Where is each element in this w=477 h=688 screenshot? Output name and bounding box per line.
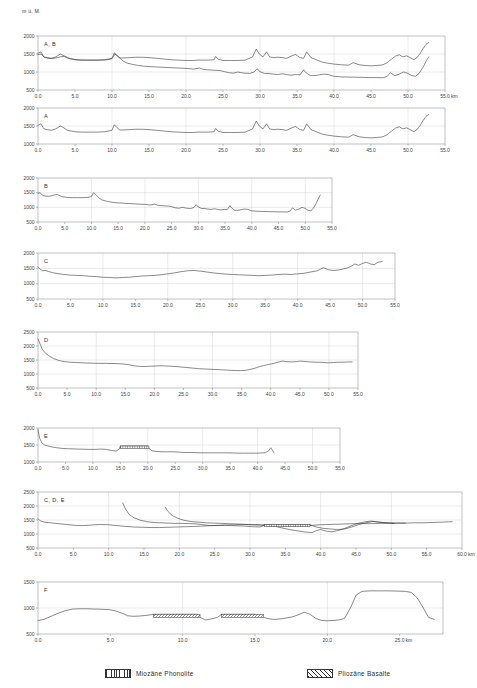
x-tick-label: 40.0 <box>316 551 326 557</box>
x-tick-label: 5.0 <box>72 93 79 99</box>
x-tick-label: 20.0 <box>322 637 332 643</box>
x-tick-label: 20.0 <box>140 225 150 231</box>
x-tick-label: 45.0 <box>351 551 361 557</box>
x-tick-label: 30.0 <box>255 93 265 99</box>
x-tick-label: 15.0 <box>139 551 149 557</box>
profile-panel-c: 2000150010005000.05.010.015.020.025.030.… <box>0 243 477 313</box>
x-tick-label: 35.0 <box>225 465 235 471</box>
x-tick-label: 35.0 <box>237 391 247 397</box>
x-tick-label: 10.0 <box>87 225 97 231</box>
profile-line-profile-D <box>38 339 352 371</box>
y-tick-label: 2000 <box>23 175 34 181</box>
x-tick-label: 0.0 <box>35 302 42 308</box>
profile-panel-ab: 2000150010005000.05.010.015.020.025.030.… <box>0 16 477 104</box>
geology-band-pliozaene-basalte <box>222 614 264 617</box>
profile-panel-e: 2000150010000.05.010.015.020.025.030.035… <box>0 418 477 476</box>
y-tick-label: 1500 <box>23 579 34 585</box>
x-tick-label: 50.0 <box>386 551 396 557</box>
x-tick-label: 15.0 <box>115 465 125 471</box>
x-tick-label: 40.0 <box>293 302 303 308</box>
x-tick-label: 55.0 <box>440 147 450 153</box>
x-tick-label: 0.0 <box>35 147 42 153</box>
panel-title: C, D, E <box>44 497 65 503</box>
x-tick-label: 5.0 <box>107 637 114 643</box>
x-tick-label: 5.0 <box>62 465 69 471</box>
x-tick-label: 40.0 <box>329 147 339 153</box>
x-tick-label: 5.0 <box>72 147 79 153</box>
x-tick-label: 10.0 <box>88 465 98 471</box>
legend-item-miozaene-phonolite: Miozäne Phonolite <box>105 669 194 678</box>
panel-title: C <box>44 258 48 264</box>
x-tick-label: 35.0 <box>292 147 302 153</box>
y-tick-label: 500 <box>26 545 35 551</box>
y-tick-label: 1500 <box>23 517 34 523</box>
x-tick-label: 5.0 <box>61 225 68 231</box>
x-axis-unit-label: km <box>468 551 475 557</box>
x-tick-label: 45.0 <box>325 302 335 308</box>
y-tick-label: 2000 <box>23 33 34 39</box>
x-tick-label: 20.0 <box>181 147 191 153</box>
y-tick-label: 1000 <box>23 605 34 611</box>
y-tick-label: 500 <box>26 219 35 225</box>
x-tick-label: 15.0 <box>144 93 154 99</box>
y-tick-label: 1500 <box>23 357 34 363</box>
x-tick-label: 20.0 <box>149 391 159 397</box>
profile-panel-f: 150010005000.05.010.015.020.025.0kmF <box>0 572 477 648</box>
y-tick-label: 1000 <box>23 141 34 147</box>
diagonal-hatch-swatch-icon <box>307 669 333 678</box>
x-tick-label: 50.0 <box>403 147 413 153</box>
x-tick-label: 10.0 <box>98 302 108 308</box>
x-tick-label: 15.0 <box>120 391 130 397</box>
x-tick-label: 20.0 <box>163 302 173 308</box>
panel-title: D <box>44 337 48 343</box>
y-tick-label: 1000 <box>23 531 34 537</box>
y-tick-label: 2500 <box>23 489 34 495</box>
legend-label-miozaene-phonolite: Miozäne Phonolite <box>136 670 194 677</box>
x-tick-label: 15.0 <box>130 302 140 308</box>
x-tick-label: 50.0 <box>324 391 334 397</box>
x-tick-label: 30.0 <box>208 391 218 397</box>
x-tick-label: 25.0 <box>167 225 177 231</box>
x-tick-label: 25.0 <box>179 391 189 397</box>
y-tick-label: 500 <box>26 87 35 93</box>
x-tick-label: 10.0 <box>107 147 117 153</box>
x-tick-label: 5.0 <box>67 302 74 308</box>
panel-title: E <box>44 433 48 439</box>
y-tick-label: 1500 <box>23 189 34 195</box>
y-tick-label: 2000 <box>23 503 34 509</box>
x-tick-label: 15.0 <box>144 147 154 153</box>
y-tick-label: 2000 <box>23 105 34 111</box>
panel-title: A, B <box>44 41 56 47</box>
x-tick-label: 10.0 <box>91 391 101 397</box>
x-tick-label: 20.0 <box>143 465 153 471</box>
x-tick-label: 30.0 <box>255 147 265 153</box>
x-tick-label: 50.0 <box>308 465 318 471</box>
x-tick-label: 30.0 <box>228 302 238 308</box>
x-tick-label: 15.0 <box>250 637 260 643</box>
x-tick-label: 35.0 <box>260 302 270 308</box>
x-tick-label: 45.0 <box>295 391 305 397</box>
x-tick-label: 60.0 <box>457 551 467 557</box>
x-tick-label: 30.0 <box>193 225 203 231</box>
vertical-hatch-swatch-icon <box>105 669 131 678</box>
x-tick-label: 55.0 <box>390 302 400 308</box>
x-tick-label: 10.0 <box>107 93 117 99</box>
y-tick-label: 1500 <box>23 51 34 57</box>
panel-title: F <box>44 587 48 593</box>
x-tick-label: 25.0 <box>195 302 205 308</box>
x-tick-label: 35.0 <box>280 551 290 557</box>
y-tick-label: 2500 <box>23 329 34 335</box>
y-axis-unit-label: m ü. M. <box>22 8 41 14</box>
x-tick-label: 45.0 <box>366 93 376 99</box>
panel-title: B <box>44 183 48 189</box>
geology-band-pliozaene-basalte <box>154 614 200 617</box>
x-tick-label: 55.0 <box>440 93 450 99</box>
geology-band-miozaene-phonolite <box>120 446 149 448</box>
x-tick-label: 40.0 <box>329 93 339 99</box>
y-tick-label: 1000 <box>23 69 34 75</box>
y-tick-label: 500 <box>26 385 35 391</box>
x-tick-label: 0.0 <box>35 225 42 231</box>
x-tick-label: 5.0 <box>64 391 71 397</box>
legend-label-pliozaene-basalte: Pliozäne Basalte <box>338 670 390 677</box>
x-tick-label: 35.0 <box>220 225 230 231</box>
